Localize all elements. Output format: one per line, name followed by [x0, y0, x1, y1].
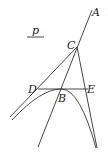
label-b: B — [57, 92, 66, 105]
label-d: D — [27, 83, 37, 96]
label-a: A — [91, 6, 100, 19]
line-c-d — [10, 47, 77, 117]
line-c-e — [77, 47, 97, 148]
line-a-c-b — [38, 10, 92, 147]
geometry-diagram: p A C D E B — [0, 0, 108, 163]
label-e: E — [86, 83, 95, 96]
parabola-curve — [12, 89, 96, 148]
label-c: C — [67, 39, 76, 52]
label-p: p — [32, 24, 39, 37]
